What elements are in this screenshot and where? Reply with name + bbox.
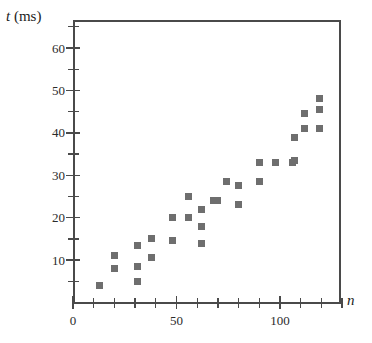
data-point bbox=[291, 134, 298, 141]
data-point bbox=[134, 242, 141, 249]
data-point bbox=[316, 95, 323, 102]
x-axis-minor-tick bbox=[93, 298, 94, 308]
scatter-plot-figure: t (ms) n 102030405060050100 bbox=[0, 0, 372, 343]
y-axis-minor-tick bbox=[68, 111, 79, 112]
y-axis-major-tick bbox=[66, 217, 80, 218]
y-axis-minor-tick bbox=[68, 26, 79, 27]
x-axis-title: n bbox=[347, 292, 355, 309]
y-axis-title: t (ms) bbox=[6, 8, 41, 25]
data-point bbox=[169, 214, 176, 221]
data-point bbox=[185, 193, 192, 200]
y-axis-minor-tick bbox=[68, 196, 79, 197]
x-axis-minor-tick bbox=[341, 298, 342, 308]
data-point bbox=[96, 282, 103, 289]
data-point bbox=[185, 214, 192, 221]
data-point bbox=[198, 240, 205, 247]
data-point bbox=[198, 223, 205, 230]
data-point bbox=[272, 159, 279, 166]
x-axis-minor-tick bbox=[300, 298, 301, 308]
plot-frame-top bbox=[73, 20, 341, 22]
x-axis-minor-tick bbox=[134, 298, 135, 308]
y-axis-major-tick bbox=[66, 132, 80, 133]
data-point bbox=[291, 157, 298, 164]
data-point bbox=[316, 106, 323, 113]
y-axis-major-tick bbox=[66, 259, 80, 260]
data-point bbox=[214, 197, 221, 204]
x-axis-tick-label: 0 bbox=[53, 314, 93, 327]
data-point bbox=[134, 263, 141, 270]
x-axis-minor-tick bbox=[259, 298, 260, 308]
plot-frame-right bbox=[339, 20, 341, 303]
x-axis-minor-tick bbox=[238, 298, 239, 308]
data-point bbox=[223, 178, 230, 185]
data-point bbox=[256, 178, 263, 185]
data-point bbox=[148, 235, 155, 242]
data-point bbox=[301, 110, 308, 117]
y-axis-tick-label: 30 bbox=[9, 169, 65, 182]
x-axis-tick-label: 100 bbox=[260, 314, 300, 327]
y-axis-unit: (ms) bbox=[14, 8, 42, 24]
data-point bbox=[111, 252, 118, 259]
data-point bbox=[301, 125, 308, 132]
y-axis-major-tick bbox=[66, 90, 80, 91]
x-axis-major-tick bbox=[72, 296, 73, 309]
data-point bbox=[235, 201, 242, 208]
x-axis-minor-tick bbox=[197, 298, 198, 308]
y-axis-major-tick bbox=[66, 175, 80, 176]
data-point bbox=[148, 254, 155, 261]
data-point bbox=[134, 278, 141, 285]
y-axis-minor-tick bbox=[68, 281, 79, 282]
data-point bbox=[169, 237, 176, 244]
y-axis-tick-label: 20 bbox=[9, 211, 65, 224]
x-axis-minor-tick bbox=[114, 298, 115, 308]
data-point bbox=[316, 125, 323, 132]
data-point bbox=[111, 265, 118, 272]
x-axis-tick-label: 50 bbox=[157, 314, 197, 327]
x-axis-major-tick bbox=[176, 296, 177, 309]
data-point bbox=[256, 159, 263, 166]
y-axis-tick-label: 10 bbox=[9, 254, 65, 267]
y-axis-minor-tick bbox=[68, 238, 79, 239]
y-axis-minor-tick bbox=[68, 153, 79, 154]
y-axis-tick-label: 60 bbox=[9, 42, 65, 55]
y-axis-tick-label: 50 bbox=[9, 84, 65, 97]
x-axis-minor-tick bbox=[155, 298, 156, 308]
data-point bbox=[235, 182, 242, 189]
x-axis-major-tick bbox=[279, 296, 280, 309]
y-axis-minor-tick bbox=[68, 69, 79, 70]
y-axis-tick-label: 40 bbox=[9, 126, 65, 139]
x-axis-minor-tick bbox=[217, 298, 218, 308]
y-axis-major-tick bbox=[66, 47, 80, 48]
x-axis-minor-tick bbox=[321, 298, 322, 308]
data-point bbox=[198, 206, 205, 213]
